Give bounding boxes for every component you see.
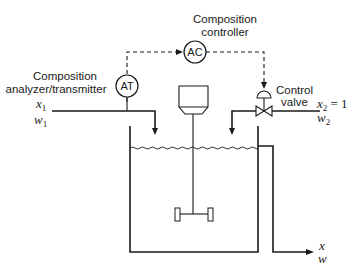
composition-controller[interactable]: AC [184, 41, 206, 63]
composition-analyzer-transmitter[interactable]: AT [116, 75, 138, 97]
analyzer-label: Composition analyzer/transmitter [6, 70, 107, 95]
inlet1-pipe [52, 111, 155, 130]
analyzer-tag: AT [120, 80, 134, 92]
inlet2-w-label: w2 [317, 110, 330, 127]
analyzer-title-line1: Composition [33, 70, 97, 82]
agitator-motor [179, 86, 208, 114]
analyzer-title-line2: analyzer/transmitter [6, 83, 107, 95]
controller-tag: AC [187, 46, 202, 58]
signal-ac-to-valve [206, 52, 264, 84]
inlet2-arrow-icon [229, 128, 235, 135]
inlet1-x-label: x1 [35, 96, 46, 113]
impeller-blade-icon [208, 208, 213, 221]
signal-arrow-icon [176, 49, 183, 55]
tank-walls [130, 126, 258, 252]
inlet1-w-label: w1 [34, 112, 47, 129]
motor-housing-icon [179, 86, 208, 114]
outlet-w-label: w [318, 251, 327, 266]
controller-title-line2: controller [201, 26, 248, 38]
controller-title-line1: Composition [193, 13, 257, 25]
outlet-pipe [258, 146, 308, 252]
valve-title-line1: Control [276, 84, 313, 96]
blending-process-diagram: Composition controller AC Composition an… [0, 0, 362, 272]
valve-label: Control valve [276, 84, 313, 108]
valve-body-icon [256, 106, 264, 116]
inlet-stream-1: x1 w1 [34, 96, 158, 135]
controller-label: Composition controller [193, 13, 257, 38]
mixing-tank [130, 126, 258, 252]
agitator [175, 114, 213, 221]
outlet-arrow-icon [306, 249, 314, 255]
valve-title-line2: valve [281, 96, 308, 108]
inlet1-arrow-icon [152, 128, 158, 135]
signal-arrow-icon [261, 82, 267, 89]
valve-actuator-icon [257, 91, 271, 98]
impeller-blade-icon [175, 208, 180, 221]
control-valve[interactable] [256, 91, 272, 116]
outlet-stream: x w [258, 146, 327, 266]
liquid-level [130, 147, 258, 149]
inlet2-pipe [232, 111, 256, 130]
